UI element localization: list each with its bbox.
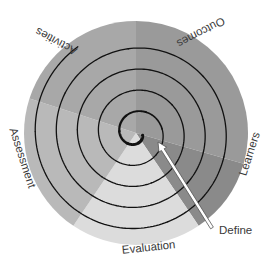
curriculum-spiral-diagram: Activities Outcomes Learners Assessment …	[0, 0, 270, 264]
spiral-segment	[127, 143, 138, 145]
sector-wheel	[24, 21, 248, 245]
define-label: Define	[219, 224, 252, 236]
